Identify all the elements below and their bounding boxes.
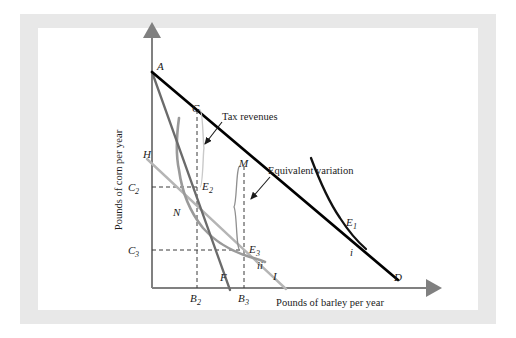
curve-label-ii: ii bbox=[257, 260, 263, 271]
x-tick-B2-sub: 2 bbox=[197, 298, 201, 307]
x-axis-label: Pounds of barley per year bbox=[276, 297, 384, 308]
y-axis-label: Pounds of corn per year bbox=[113, 129, 124, 230]
indifference-curve-chart: Pounds of corn per year Pounds of barley… bbox=[0, 0, 516, 338]
equivalent-variation-label: Equivalent variation bbox=[268, 165, 354, 176]
point-label-N: N bbox=[172, 206, 181, 218]
x-tick-B3-base: B bbox=[238, 292, 245, 304]
point-label-E2-base: E bbox=[201, 180, 209, 192]
point-label-F: F bbox=[219, 271, 227, 283]
point-label-D: D bbox=[393, 271, 402, 283]
tax-revenues-bracket bbox=[200, 110, 204, 187]
point-label-A: A bbox=[156, 60, 164, 72]
point-label-E2: E 2 bbox=[201, 180, 213, 195]
point-label-E3-base: E bbox=[248, 243, 256, 255]
tax-revenues-label: Tax revenues bbox=[222, 111, 278, 122]
equivalent-variation-arrow bbox=[251, 177, 270, 199]
x-tick-B2-base: B bbox=[190, 292, 197, 304]
curve-label-i: i bbox=[350, 247, 353, 258]
y-tick-C2: C 2 bbox=[128, 181, 139, 196]
point-label-E2-sub: 2 bbox=[209, 186, 213, 195]
point-label-E3-sub: 3 bbox=[255, 249, 260, 258]
y-tick-C3-sub: 3 bbox=[134, 250, 139, 259]
point-label-E1-base: E bbox=[345, 216, 353, 228]
axes-group bbox=[152, 36, 428, 288]
y-tick-C2-sub: 2 bbox=[135, 187, 139, 196]
point-label-H: H bbox=[142, 148, 152, 160]
x-tick-B2: B 2 bbox=[190, 292, 201, 307]
x-tick-B3-sub: 3 bbox=[244, 298, 249, 307]
point-label-G: G bbox=[192, 102, 200, 114]
y-tick-C3: C 3 bbox=[128, 244, 139, 259]
x-tick-B3: B 3 bbox=[238, 292, 249, 307]
indifference-curve-ii bbox=[177, 118, 265, 262]
point-label-M: M bbox=[238, 157, 249, 169]
equivalent-variation-bracket bbox=[234, 166, 240, 250]
budget-line-hi bbox=[147, 159, 286, 289]
figure-root: Pounds of corn per year Pounds of barley… bbox=[0, 0, 516, 338]
point-label-E1-sub: 1 bbox=[353, 222, 357, 231]
